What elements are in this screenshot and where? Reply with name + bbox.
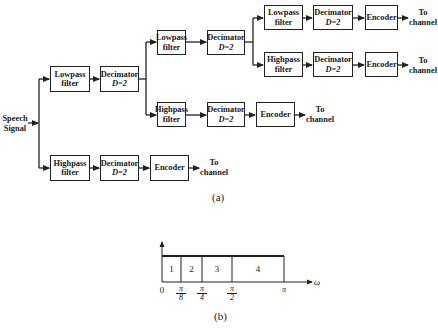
output-label-line1: To — [306, 105, 334, 115]
band-3: 3 — [202, 264, 232, 274]
block-label: Decimator — [101, 159, 139, 169]
block-label: Encoder — [154, 163, 184, 173]
band-2: 2 — [181, 264, 202, 274]
caption-a: (a) — [212, 191, 224, 203]
tick-pi-8: π 8 — [176, 285, 186, 302]
l3-highpass-decimator: Decimator D=2 — [313, 52, 353, 77]
block-label: filter — [275, 18, 293, 28]
block-label: Decimator — [314, 8, 352, 18]
input-label-line1: Speech — [0, 114, 30, 124]
output-label-line2: channel — [409, 66, 437, 76]
l2-lowpass-filter: Lowpass filter — [157, 30, 186, 55]
l3-highpass-filter: Highpass filter — [264, 52, 303, 77]
tick-numerator: π — [230, 284, 234, 293]
block-label: D=2 — [112, 79, 127, 89]
tick-pi-2: π 2 — [227, 285, 237, 302]
block-label: filter — [163, 43, 181, 53]
block-label: Highpass — [267, 55, 300, 65]
block-label: D=2 — [112, 168, 127, 178]
tick-pi-4: π 4 — [197, 285, 207, 302]
l2-highpass-encoder: Encoder — [256, 102, 295, 127]
band-1: 1 — [162, 264, 181, 274]
block-label: Encoder — [260, 110, 290, 120]
block-label: filter — [61, 79, 79, 89]
block-label: Lowpass — [54, 70, 85, 80]
tick-denominator: 4 — [197, 293, 207, 302]
block-label: filter — [61, 168, 79, 178]
block-label: D=2 — [325, 18, 340, 28]
l1-highpass-filter: Highpass filter — [50, 155, 90, 181]
output-label-line2: channel — [200, 168, 228, 178]
speech-signal-label: Speech Signal — [0, 114, 30, 133]
l3-lowpass-filter: Lowpass filter — [264, 5, 303, 30]
block-label: Encoder — [366, 13, 396, 23]
l1-highpass-encoder: Encoder — [150, 155, 189, 181]
l3-lowpass-to-channel-label: To channel — [409, 8, 437, 27]
origin-label: 0 — [158, 286, 166, 294]
output-label-line1: To — [409, 8, 437, 18]
omega-axis-label: ω — [313, 278, 321, 286]
l2-highpass-filter: Highpass filter — [157, 102, 186, 127]
block-label: Decimator — [207, 105, 245, 115]
l1-to-channel-label: To channel — [200, 158, 228, 177]
l2-lowpass-decimator: Decimator D=2 — [207, 30, 245, 55]
block-label: filter — [275, 65, 293, 75]
output-label-line2: channel — [409, 18, 437, 28]
input-label-line2: Signal — [0, 124, 30, 134]
caption-b: (b) — [214, 310, 227, 322]
l2-highpass-decimator: Decimator D=2 — [207, 102, 245, 127]
block-label: Encoder — [366, 60, 396, 70]
l1-lowpass-decimator: Decimator D=2 — [100, 66, 139, 92]
tick-numerator: π — [179, 284, 183, 293]
block-label: Decimator — [101, 70, 139, 80]
block-label: Lowpass — [156, 33, 187, 43]
output-label-line1: To — [200, 158, 228, 168]
band-4: 4 — [232, 264, 284, 274]
l1-highpass-decimator: Decimator D=2 — [100, 155, 139, 181]
tick-pi: π — [279, 286, 289, 294]
l3-highpass-encoder: Encoder — [365, 52, 398, 77]
l3-lowpass-encoder: Encoder — [365, 5, 398, 30]
block-label: filter — [163, 115, 181, 125]
output-label-line2: channel — [306, 115, 334, 125]
output-label-line1: To — [409, 56, 437, 66]
l3-lowpass-decimator: Decimator D=2 — [313, 5, 353, 30]
l2-to-channel-label: To channel — [306, 105, 334, 124]
block-label: Highpass — [155, 105, 188, 115]
block-label: D=2 — [218, 43, 233, 53]
block-label: D=2 — [218, 115, 233, 125]
tick-denominator: 2 — [227, 293, 237, 302]
tick-denominator: 8 — [176, 293, 186, 302]
tick-numerator: π — [200, 284, 204, 293]
l1-lowpass-filter: Lowpass filter — [50, 66, 90, 92]
block-label: Lowpass — [268, 8, 299, 18]
block-label: Decimator — [207, 33, 245, 43]
block-label: D=2 — [325, 65, 340, 75]
block-label: Decimator — [314, 55, 352, 65]
l3-highpass-to-channel-label: To channel — [409, 56, 437, 75]
block-label: Highpass — [53, 159, 86, 169]
